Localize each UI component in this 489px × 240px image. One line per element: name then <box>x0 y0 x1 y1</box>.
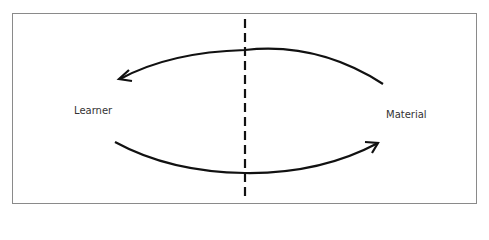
material-label: Material <box>386 109 427 120</box>
arrow-material-to-learner <box>119 49 383 84</box>
arrow-learner-to-material <box>115 142 378 173</box>
learner-label: Learner <box>74 105 112 116</box>
